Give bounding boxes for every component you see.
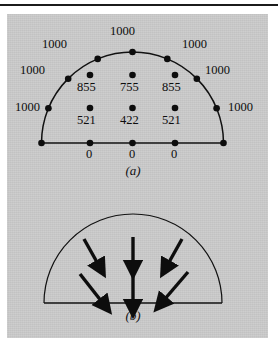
arrow-bottom-right <box>164 272 188 300</box>
node-dot <box>194 75 201 82</box>
interior-node-label: 755 <box>120 80 139 95</box>
node-dot <box>87 105 94 112</box>
boundary-node-label: 1000 <box>110 24 135 39</box>
node-dot <box>45 105 52 112</box>
panel-b-caption: (b) <box>113 308 153 324</box>
node-dot <box>172 72 179 79</box>
boundary-node-label: 1000 <box>20 63 45 78</box>
interior-node-label: 521 <box>162 113 181 128</box>
boundary-node-label: 1000 <box>182 37 207 52</box>
node-dot <box>65 75 72 82</box>
panel-a-caption: (a) <box>113 163 153 179</box>
boundary-node-label: 1000 <box>228 100 253 115</box>
panel-a-geometry <box>42 52 224 143</box>
node-dot <box>172 140 179 147</box>
node-dot <box>129 140 136 147</box>
node-dot <box>94 56 101 63</box>
node-dot <box>87 72 94 79</box>
panel-a-boundary-node-dots <box>38 49 227 147</box>
arrow-bottom-left <box>80 274 102 302</box>
boundary-node-label: 1000 <box>15 100 40 115</box>
arrow-top-right <box>168 239 182 264</box>
interior-node-label: 521 <box>77 113 96 128</box>
node-dot <box>87 140 94 147</box>
node-dot <box>220 140 227 147</box>
node-dot <box>172 105 179 112</box>
node-dot <box>38 140 45 147</box>
node-dot <box>129 105 136 112</box>
node-dot <box>213 105 220 112</box>
boundary-node-label: 1000 <box>42 37 67 52</box>
node-dot <box>129 49 136 56</box>
interior-node-label: 855 <box>77 80 96 95</box>
panel-a-arc <box>42 52 224 143</box>
node-dot <box>129 72 136 79</box>
arrow-top-left <box>84 239 98 264</box>
interior-node-label: 422 <box>120 113 139 128</box>
node-dot <box>164 56 171 63</box>
boundary-node-label: 1000 <box>205 63 230 78</box>
figure-root: 1000 1000 1000 1000 1000 1000 1000 855 7… <box>0 0 278 350</box>
baseline-node-label: 0 <box>129 147 135 162</box>
baseline-node-label: 0 <box>86 147 92 162</box>
baseline-node-label: 0 <box>171 147 177 162</box>
interior-node-label: 855 <box>162 80 181 95</box>
panel-b-flow-arrows <box>80 237 188 303</box>
